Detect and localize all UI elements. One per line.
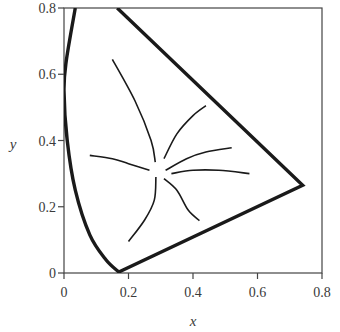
confusion-line — [166, 148, 232, 171]
x-tick-label: 0.6 — [249, 285, 267, 300]
x-tick-label: 0 — [61, 285, 68, 300]
data-series — [64, 8, 303, 272]
plot-frame — [64, 8, 322, 273]
y-tick-label: 0.8 — [39, 1, 57, 16]
confusion-line — [171, 170, 249, 174]
x-tick-label: 0.4 — [184, 285, 202, 300]
y-tick-label: 0.6 — [39, 67, 57, 82]
confusion-line — [129, 177, 156, 242]
confusion-line — [164, 106, 206, 159]
chromaticity-chart: 00.20.40.60.8 00.20.40.60.8 x y — [0, 0, 340, 332]
x-axis-ticks: 00.20.40.60.8 — [61, 273, 331, 300]
x-axis-label: x — [189, 313, 197, 329]
confusion-line — [164, 179, 199, 221]
y-tick-label: 0.4 — [39, 134, 57, 149]
confusion-line — [112, 59, 155, 162]
confusion-line — [90, 155, 150, 170]
y-axis-ticks: 00.20.40.60.8 — [39, 1, 65, 281]
y-axis-label: y — [8, 136, 17, 152]
gamut-boundary-line — [64, 8, 303, 272]
x-tick-label: 0.2 — [120, 285, 138, 300]
axes-box — [64, 8, 322, 273]
x-tick-label: 0.8 — [313, 285, 331, 300]
y-tick-label: 0 — [49, 266, 56, 281]
y-tick-label: 0.2 — [39, 200, 57, 215]
